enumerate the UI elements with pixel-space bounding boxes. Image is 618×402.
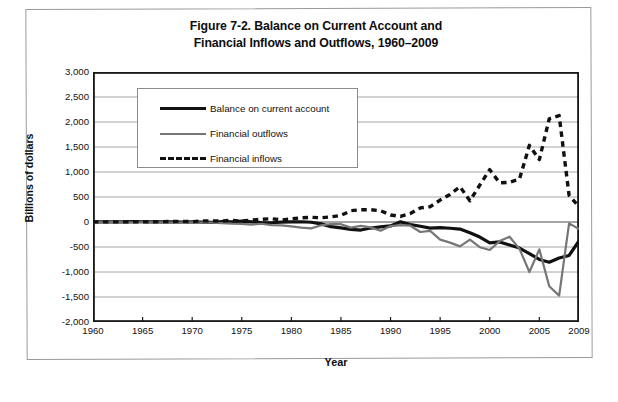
y-tick-label: 3,000 — [37, 66, 89, 77]
x-tick-label: 1995 — [417, 325, 463, 336]
x-tick-label: 1985 — [318, 325, 364, 336]
x-axis-tick-labels: 1960196519701975198019851990199520002005… — [93, 325, 579, 345]
chart-title-line-1: Figure 7-2. Balance on Current Account a… — [86, 18, 546, 35]
series-line-0 — [93, 221, 579, 262]
legend-item: Financial outflows — [138, 123, 359, 143]
x-tick-label: 1960 — [70, 325, 116, 336]
legend-swatch-icon — [160, 157, 206, 160]
y-tick-label: 2,000 — [37, 116, 89, 127]
x-tick-label: 1965 — [120, 325, 166, 336]
legend-swatch-icon — [160, 133, 206, 135]
y-tick-label: 500 — [37, 191, 89, 202]
chart-legend: Balance on current accountFinancial outf… — [137, 88, 358, 168]
x-tick-label: 1975 — [219, 325, 265, 336]
x-tick-label: 1990 — [368, 325, 414, 336]
y-tick-label: 0 — [37, 216, 89, 227]
legend-label: Financial outflows — [210, 128, 288, 139]
y-tick-label: -500 — [37, 241, 89, 252]
y-tick-label: 1,500 — [37, 141, 89, 152]
legend-label: Balance on current account — [210, 103, 329, 114]
legend-label: Financial inflows — [210, 153, 282, 164]
x-tick-label: 1970 — [169, 325, 215, 336]
x-axis-title: Year — [93, 356, 579, 368]
series-line-1 — [93, 222, 579, 295]
x-tick-label: 1980 — [268, 325, 314, 336]
legend-swatch-icon — [160, 107, 206, 110]
x-tick-label: 2000 — [467, 325, 513, 336]
y-tick-label: -1,500 — [37, 291, 89, 302]
legend-item: Financial inflows — [138, 148, 359, 168]
figure-container: Figure 7-2. Balance on Current Account a… — [0, 0, 618, 402]
y-tick-label: 1,000 — [37, 166, 89, 177]
chart-title-line-2: Financial Inflows and Outflows, 1960–200… — [86, 35, 546, 52]
x-tick-label: 2009 — [556, 325, 602, 336]
y-tick-label: -1,000 — [37, 266, 89, 277]
chart-title: Figure 7-2. Balance on Current Account a… — [86, 18, 546, 52]
y-axis-tick-labels: 3,0002,5002,0001,5001,0005000-500-1,000-… — [33, 72, 89, 322]
legend-item: Balance on current account — [138, 98, 359, 118]
y-tick-label: 2,500 — [37, 91, 89, 102]
